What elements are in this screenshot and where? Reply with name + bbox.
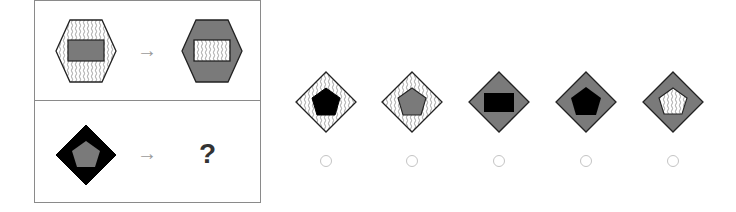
option-2-figure[interactable] (381, 71, 443, 133)
question-source-figure (54, 123, 118, 187)
option-1-radio[interactable] (320, 155, 332, 167)
rectangle-black-icon (484, 93, 514, 112)
question-mark: ? (199, 139, 216, 169)
option-5-figure[interactable] (642, 71, 704, 133)
rectangle-wavy-icon (194, 40, 230, 61)
option-4-radio[interactable] (580, 155, 592, 167)
example-source-figure (54, 18, 118, 84)
option-4-figure[interactable] (555, 71, 617, 133)
puzzle-divider (34, 100, 261, 101)
example-target-figure (180, 18, 244, 84)
option-5-radio[interactable] (667, 155, 679, 167)
example-arrow: → (137, 40, 157, 60)
option-2-radio[interactable] (406, 155, 418, 167)
option-1-figure[interactable] (295, 71, 357, 133)
option-3-radio[interactable] (493, 155, 505, 167)
option-3-figure[interactable] (468, 71, 530, 133)
rectangle-gray-icon (68, 40, 104, 61)
question-arrow: → (137, 143, 157, 163)
